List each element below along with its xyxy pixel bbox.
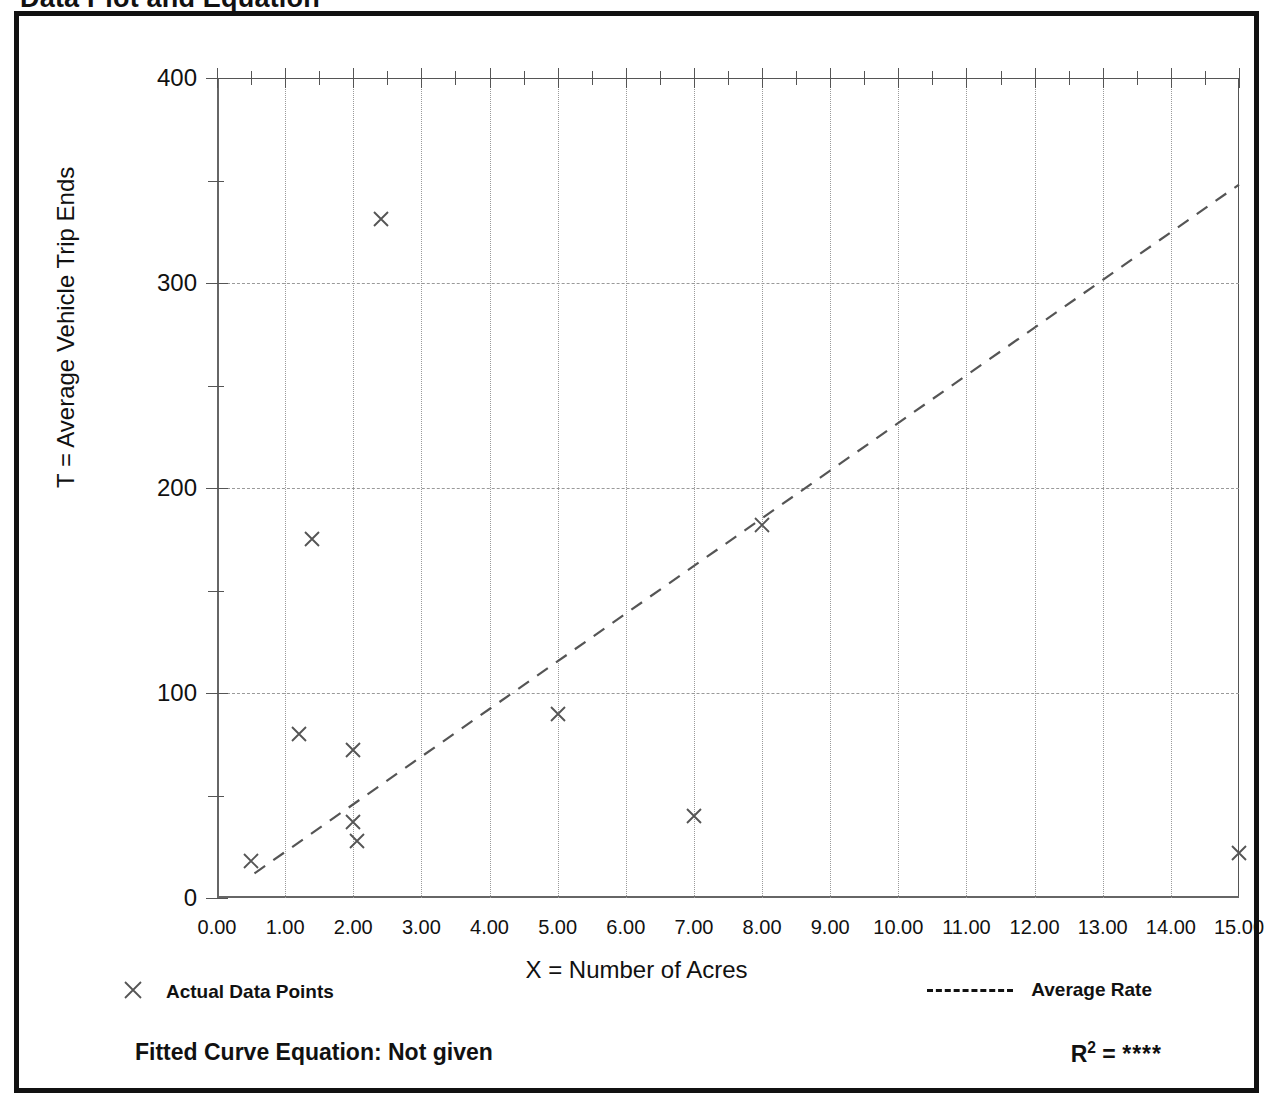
legend-actual-data-points: Actual Data Points bbox=[122, 979, 334, 1005]
x-axis-tick-label: 4.00 bbox=[470, 916, 509, 939]
y-axis-title: T = Average Vehicle Trip Ends bbox=[52, 167, 80, 488]
y-axis-tick-label: 100 bbox=[157, 679, 197, 707]
x-axis-tick-label: 11.00 bbox=[942, 916, 991, 939]
figure-frame: 0100200300400 0.001.002.003.004.005.006.… bbox=[14, 11, 1259, 1093]
r-squared-stars: **** bbox=[1122, 1041, 1162, 1067]
x-cross-marker-icon bbox=[122, 979, 144, 1005]
x-axis-tick-label: 9.00 bbox=[811, 916, 850, 939]
r-squared-label: R bbox=[1071, 1041, 1088, 1067]
x-axis-tick-label: 8.00 bbox=[743, 916, 782, 939]
y-axis-tick-label: 300 bbox=[157, 269, 197, 297]
y-axis-tick-label: 0 bbox=[184, 884, 197, 912]
x-axis-tick-label: 15.00 bbox=[1214, 916, 1264, 939]
x-axis-tick-label: 13.00 bbox=[1078, 916, 1128, 939]
y-axis-tick-label: 400 bbox=[157, 64, 197, 92]
x-axis-tick-label: 10.00 bbox=[873, 916, 923, 939]
x-axis-tick-label: 2.00 bbox=[334, 916, 373, 939]
r-squared-equals: = bbox=[1102, 1041, 1115, 1067]
plot-area: 0100200300400 0.001.002.003.004.005.006.… bbox=[217, 78, 1239, 898]
y-axis-tick-label: 200 bbox=[157, 474, 197, 502]
x-axis-tick-label: 14.00 bbox=[1146, 916, 1196, 939]
r-squared-exponent: 2 bbox=[1087, 1039, 1096, 1056]
figure-page: Data Plot and Equation 0100200300400 0.0… bbox=[0, 0, 1273, 1105]
average-rate-trendline bbox=[217, 78, 1239, 898]
legend-label-actual-data-points: Actual Data Points bbox=[166, 981, 334, 1003]
x-axis-tick-label: 1.00 bbox=[266, 916, 305, 939]
trendline-segment bbox=[254, 185, 1239, 874]
x-axis-tick-label: 0.00 bbox=[198, 916, 237, 939]
x-axis-tick-label: 12.00 bbox=[1010, 916, 1060, 939]
y-tick-major bbox=[206, 898, 228, 899]
legend-average-rate: Average Rate bbox=[927, 979, 1152, 1001]
x-axis-tick-label: 5.00 bbox=[538, 916, 577, 939]
dashed-line-icon bbox=[927, 989, 1013, 992]
x-axis-tick-label: 3.00 bbox=[402, 916, 441, 939]
x-axis-tick-label: 6.00 bbox=[606, 916, 645, 939]
legend-label-average-rate: Average Rate bbox=[1031, 979, 1152, 1001]
fitted-curve-equation: Fitted Curve Equation: Not given bbox=[135, 1039, 493, 1066]
r-squared-value: R2 = **** bbox=[1071, 1039, 1162, 1068]
x-axis-tick-label: 7.00 bbox=[674, 916, 713, 939]
x-tick-major bbox=[1239, 68, 1240, 88]
